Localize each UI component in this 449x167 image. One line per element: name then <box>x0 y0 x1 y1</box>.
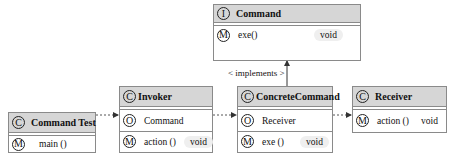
method-row[interactable]: M action () void <box>120 131 212 151</box>
class-header: C Invoker <box>120 87 212 107</box>
class-icon: C <box>123 90 136 103</box>
method-row[interactable]: M action () void <box>353 110 446 131</box>
method-icon: M <box>217 29 230 42</box>
class-icon: C <box>356 90 369 103</box>
class-header: C Command Test <box>9 113 95 133</box>
class-icon: C <box>241 90 254 103</box>
method-name: main () <box>39 139 67 149</box>
method-icon: M <box>356 114 369 127</box>
class-name: Invoker <box>138 91 172 102</box>
method-row[interactable]: M exe() void <box>214 26 360 44</box>
class-concrete-command[interactable]: C ConcreteCommand O Receiver M exe () vo… <box>237 86 333 153</box>
class-icon: C <box>12 116 25 129</box>
return-type-badge: void <box>314 29 343 41</box>
return-type-badge: void <box>184 136 213 148</box>
class-name: ConcreteCommand <box>256 91 340 102</box>
method-name: action () <box>144 137 176 147</box>
method-row[interactable]: M main () <box>9 136 95 152</box>
attribute-row[interactable]: O Command <box>120 110 212 131</box>
class-command-test-frame: C Command Test M main () <box>8 112 96 153</box>
method-icon: M <box>241 135 254 148</box>
interface-icon: I <box>217 7 230 20</box>
method-name: exe () <box>262 137 284 147</box>
method-icon: M <box>12 138 25 151</box>
class-header: I Command <box>214 5 360 23</box>
return-type-badge: void <box>415 115 444 127</box>
method-icon: M <box>123 135 136 148</box>
class-header: C ConcreteCommand <box>238 87 332 107</box>
attribute-name: Command <box>144 116 184 126</box>
class-command[interactable]: I Command M exe() void <box>213 4 361 61</box>
class-name: Command Test <box>31 117 96 128</box>
method-row[interactable]: M exe () void <box>238 131 332 151</box>
return-type-badge: void <box>300 136 329 148</box>
method-name: exe() <box>238 30 258 40</box>
class-name: Receiver <box>375 91 412 102</box>
attribute-icon: O <box>241 114 254 127</box>
class-invoker[interactable]: C Invoker O Command M action () void <box>119 86 213 153</box>
method-name: action () <box>377 116 409 126</box>
class-receiver[interactable]: C Receiver M action () void <box>352 86 447 133</box>
attribute-name: Receiver <box>262 116 296 126</box>
class-name: Command <box>236 8 281 19</box>
attribute-icon: O <box>123 114 136 127</box>
class-header: C Receiver <box>353 87 446 107</box>
implements-label: < implements > <box>228 68 285 78</box>
attribute-row[interactable]: O Receiver <box>238 110 332 131</box>
